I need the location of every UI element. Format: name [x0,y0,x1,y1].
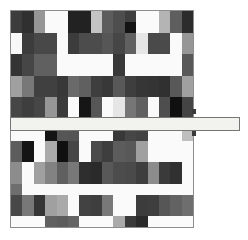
heatmap-cell[interactable] [11,54,22,65]
heatmap-cell[interactable] [113,205,124,216]
heatmap-cell[interactable] [148,195,159,206]
heatmap-cell[interactable] [182,184,193,195]
heatmap-cell[interactable] [125,54,136,65]
heatmap-cell[interactable] [11,162,22,173]
heatmap-cell[interactable] [91,216,102,227]
heatmap-cell[interactable] [136,33,147,44]
heatmap-cell[interactable] [79,205,90,216]
heatmap-cell[interactable] [22,76,33,87]
heatmap-cell[interactable] [182,11,193,22]
heatmap-cell[interactable] [125,173,136,184]
heatmap-cell[interactable] [159,184,170,195]
heatmap-cell[interactable] [125,11,136,22]
heatmap-cell[interactable] [57,184,68,195]
heatmap-cell[interactable] [22,151,33,162]
heatmap-cell[interactable] [45,22,56,33]
heatmap-cell[interactable] [79,33,90,44]
heatmap-cell[interactable] [22,43,33,54]
heatmap-cell[interactable] [91,76,102,87]
heatmap-cell[interactable] [170,22,181,33]
heatmap-cell[interactable] [170,65,181,76]
heatmap-cell[interactable] [79,173,90,184]
heatmap-cell[interactable] [159,22,170,33]
heatmap-cell[interactable] [11,22,22,33]
heatmap-cell[interactable] [170,54,181,65]
tooltip-bar[interactable] [10,117,240,131]
heatmap-cell[interactable] [11,130,22,141]
heatmap-cell[interactable] [125,87,136,98]
heatmap-cell[interactable] [22,130,33,141]
heatmap-cell[interactable] [11,43,22,54]
heatmap-cell[interactable] [22,162,33,173]
heatmap-cell[interactable] [148,87,159,98]
heatmap-cell[interactable] [68,216,79,227]
heatmap-cell[interactable] [148,205,159,216]
heatmap-cell[interactable] [57,76,68,87]
heatmap-cell[interactable] [68,184,79,195]
heatmap-cell[interactable] [148,54,159,65]
heatmap-cell[interactable] [159,54,170,65]
heatmap-cell[interactable] [182,87,193,98]
heatmap-cell[interactable] [11,151,22,162]
heatmap-cell[interactable] [125,216,136,227]
heatmap-cell[interactable] [68,54,79,65]
heatmap-cell[interactable] [45,54,56,65]
heatmap-cell[interactable] [159,97,170,108]
heatmap-cell[interactable] [182,151,193,162]
heatmap-cell[interactable] [102,205,113,216]
heatmap-cell[interactable] [113,141,124,152]
heatmap-cell[interactable] [68,205,79,216]
heatmap-cell[interactable] [182,33,193,44]
heatmap-cell[interactable] [125,97,136,108]
heatmap-cell[interactable] [148,22,159,33]
heatmap-cell[interactable] [125,184,136,195]
heatmap-cell[interactable] [57,151,68,162]
heatmap-cell[interactable] [11,173,22,184]
heatmap-cell[interactable] [34,205,45,216]
heatmap-cell[interactable] [68,22,79,33]
heatmap-cell[interactable] [34,195,45,206]
heatmap-cell[interactable] [11,11,22,22]
heatmap-cell[interactable] [45,195,56,206]
heatmap-cell[interactable] [68,151,79,162]
heatmap-cell[interactable] [91,162,102,173]
heatmap-cell[interactable] [170,97,181,108]
heatmap-cell[interactable] [170,162,181,173]
heatmap-cell[interactable] [125,22,136,33]
heatmap-cell[interactable] [182,65,193,76]
heatmap-cell[interactable] [102,54,113,65]
heatmap-cell[interactable] [159,216,170,227]
heatmap-cell[interactable] [102,141,113,152]
heatmap-cell[interactable] [79,76,90,87]
heatmap-cell[interactable] [22,65,33,76]
heatmap-cell[interactable] [68,11,79,22]
heatmap-cell[interactable] [57,54,68,65]
heatmap-cell[interactable] [102,43,113,54]
heatmap-cell[interactable] [34,11,45,22]
heatmap-cell[interactable] [79,151,90,162]
heatmap-cell[interactable] [34,87,45,98]
heatmap-cell[interactable] [136,43,147,54]
heatmap-cell[interactable] [102,162,113,173]
heatmap-cell[interactable] [57,43,68,54]
heatmap-cell[interactable] [68,87,79,98]
heatmap-cell[interactable] [34,54,45,65]
heatmap-cell[interactable] [136,141,147,152]
heatmap-cell[interactable] [68,33,79,44]
heatmap-cell[interactable] [113,130,124,141]
heatmap-cell[interactable] [57,195,68,206]
heatmap-cell[interactable] [102,76,113,87]
heatmap-cell[interactable] [79,184,90,195]
heatmap-cell[interactable] [182,97,193,108]
heatmap-cell[interactable] [79,87,90,98]
heatmap-cell[interactable] [170,87,181,98]
heatmap-cell[interactable] [136,205,147,216]
heatmap-cell[interactable] [57,216,68,227]
heatmap-cell[interactable] [159,76,170,87]
heatmap-cell[interactable] [22,173,33,184]
heatmap-cell[interactable] [170,151,181,162]
heatmap-cell[interactable] [113,65,124,76]
heatmap-cell[interactable] [159,43,170,54]
heatmap-cell[interactable] [57,65,68,76]
heatmap-cell[interactable] [45,162,56,173]
